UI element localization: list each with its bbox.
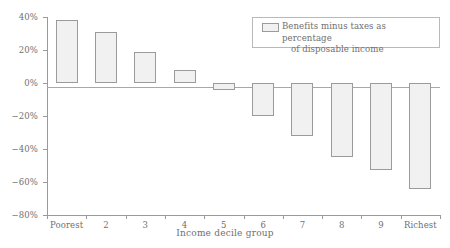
y-axis-tick [43,182,47,183]
y-axis-tick [43,17,47,18]
y-axis-label: −80% [12,211,38,220]
x-axis-tick [204,215,205,219]
y-axis-tick [43,149,47,150]
x-axis-tick [165,215,166,219]
x-axis-tick [86,215,87,219]
bar [409,83,431,189]
x-axis-tick [361,215,362,219]
bar [370,83,392,170]
bar-chart: 40%20%0%−20%−40%−60%−80% Poorest23456789… [0,0,450,248]
x-axis-tick [401,215,402,219]
x-axis-tick [283,215,284,219]
x-axis-title: Income decile group [0,228,450,238]
bar [213,83,235,90]
bar [174,70,196,83]
y-axis-label: 20% [19,46,38,55]
x-axis-tick [244,215,245,219]
x-axis-tick [47,215,48,219]
y-axis-tick [43,116,47,117]
x-axis-tick [126,215,127,219]
x-axis-tick [322,215,323,219]
legend-label-line-2: of disposable income [282,44,434,56]
bar [331,83,353,157]
y-axis-tick [43,50,47,51]
bar [252,83,274,116]
y-axis-label: −60% [12,178,38,187]
y-axis-label: 40% [19,13,38,22]
bar [291,83,313,136]
bar [95,32,117,83]
legend-label-line-1: Benefits minus taxes as percentage [282,21,386,43]
legend: Benefits minus taxes as percentage of di… [252,17,440,48]
y-axis-label: 0% [24,79,38,88]
bar [134,52,156,83]
legend-label: Benefits minus taxes as percentage of di… [282,21,434,56]
legend-swatch-icon [262,23,279,32]
bar [56,20,78,83]
y-axis-label: −40% [12,145,38,154]
y-axis-tick [43,83,47,84]
x-axis-tick [440,215,441,219]
y-axis-label: −20% [12,112,38,121]
y-axis-line [47,17,48,215]
